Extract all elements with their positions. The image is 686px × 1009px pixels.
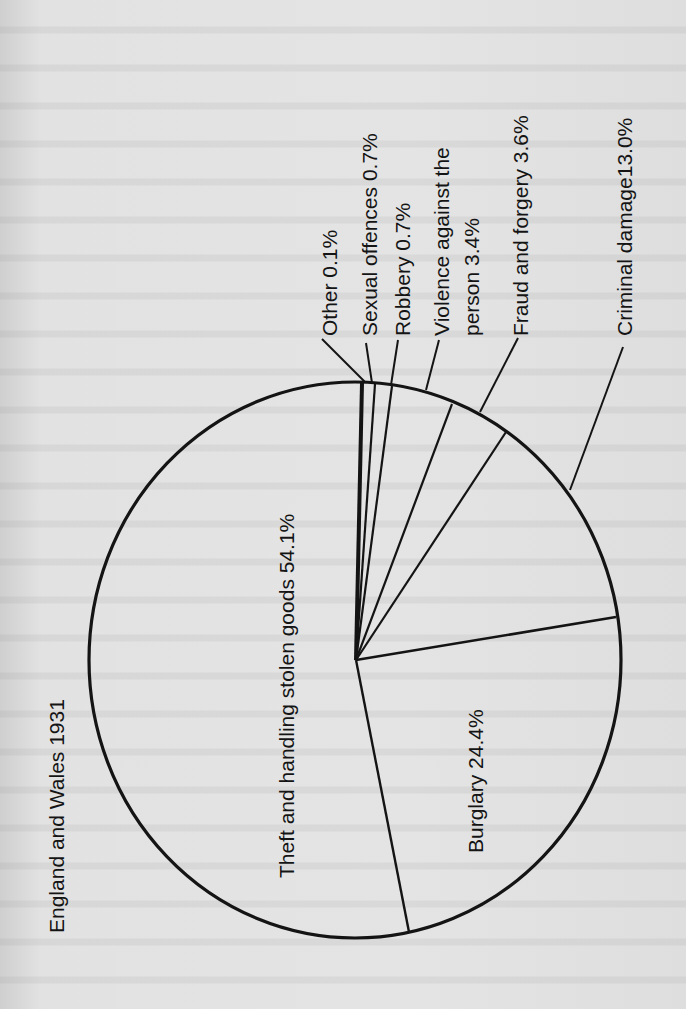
chart-title: England and Wales 1931 [45,699,68,933]
label-violence-line2: person 3.4% [460,218,483,336]
pie-outline [89,382,621,938]
label-theft-handling: Theft and handling stolen goods 54.1% [275,514,298,878]
label-violence-line1: Violence against the [430,147,453,336]
label-criminal-damage: Criminal damage13.0% [613,118,636,336]
label-other: Other 0.1% [318,230,341,336]
divider-violence-fraud [356,432,506,660]
pie-chart: Other 0.1% Sexual offences 0.7% Robbery … [0,0,686,1009]
leader-sexual [366,343,372,383]
label-burglary: Burglary 24.4% [464,709,487,853]
divider-criminal-burglary [356,660,409,932]
leader-robbery [391,340,398,385]
label-fraud-forgery: Fraud and forgery 3.6% [509,115,532,336]
leader-fraud [480,338,518,412]
label-sexual-offences: Sexual offences 0.7% [358,133,381,336]
leader-lines [322,338,623,490]
divider-fraud-criminal [356,617,616,660]
leader-other [322,339,365,382]
leader-criminal [570,347,623,490]
label-robbery: Robbery 0.7% [391,203,414,336]
leader-violence [426,340,439,390]
